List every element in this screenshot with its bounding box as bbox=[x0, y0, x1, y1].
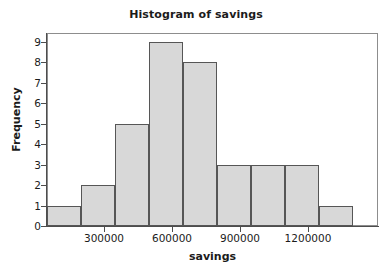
histogram-bar bbox=[217, 165, 251, 226]
y-axis-tick-label: 6 bbox=[27, 98, 41, 109]
histogram-bar bbox=[319, 206, 353, 226]
y-axis-tick-label: 8 bbox=[27, 57, 41, 68]
histogram-bar bbox=[251, 165, 285, 226]
histogram-bar bbox=[81, 185, 115, 226]
y-axis-tick-labels: 0123456789 bbox=[23, 0, 41, 276]
y-axis-tick bbox=[41, 42, 46, 43]
x-axis-line bbox=[46, 226, 379, 227]
plot-area bbox=[47, 33, 378, 226]
y-axis-tick bbox=[41, 124, 46, 125]
y-axis-tick bbox=[41, 226, 46, 227]
y-axis-tick bbox=[41, 62, 46, 63]
y-axis-tick-label: 4 bbox=[27, 139, 41, 150]
histogram-bar bbox=[115, 124, 149, 226]
y-axis-tick bbox=[41, 83, 46, 84]
y-axis-tick bbox=[41, 103, 46, 104]
y-axis-tick-label: 0 bbox=[27, 221, 41, 232]
histogram-figure: Histogram of savings 0123456789 30000060… bbox=[0, 0, 392, 276]
y-axis-title: Frequency bbox=[10, 75, 23, 165]
y-axis-tick-label: 1 bbox=[27, 201, 41, 212]
y-axis-tick-label: 9 bbox=[27, 37, 41, 48]
y-axis-tick bbox=[41, 165, 46, 166]
y-axis-line bbox=[46, 33, 47, 227]
y-axis-tick-label: 3 bbox=[27, 160, 41, 171]
y-axis-tick-label: 5 bbox=[27, 119, 41, 130]
y-axis-tick bbox=[41, 144, 46, 145]
histogram-bar bbox=[183, 62, 217, 226]
y-axis-tick-label: 2 bbox=[27, 180, 41, 191]
chart-title: Histogram of savings bbox=[0, 8, 392, 21]
y-axis-tick bbox=[41, 206, 46, 207]
x-axis-tick-label: 1200000 bbox=[268, 233, 348, 244]
y-axis-tick bbox=[41, 185, 46, 186]
x-axis-title: savings bbox=[47, 250, 378, 263]
histogram-bar bbox=[47, 206, 81, 226]
histogram-bar bbox=[149, 42, 183, 226]
y-axis-tick-label: 7 bbox=[27, 78, 41, 89]
histogram-bar bbox=[285, 165, 319, 226]
